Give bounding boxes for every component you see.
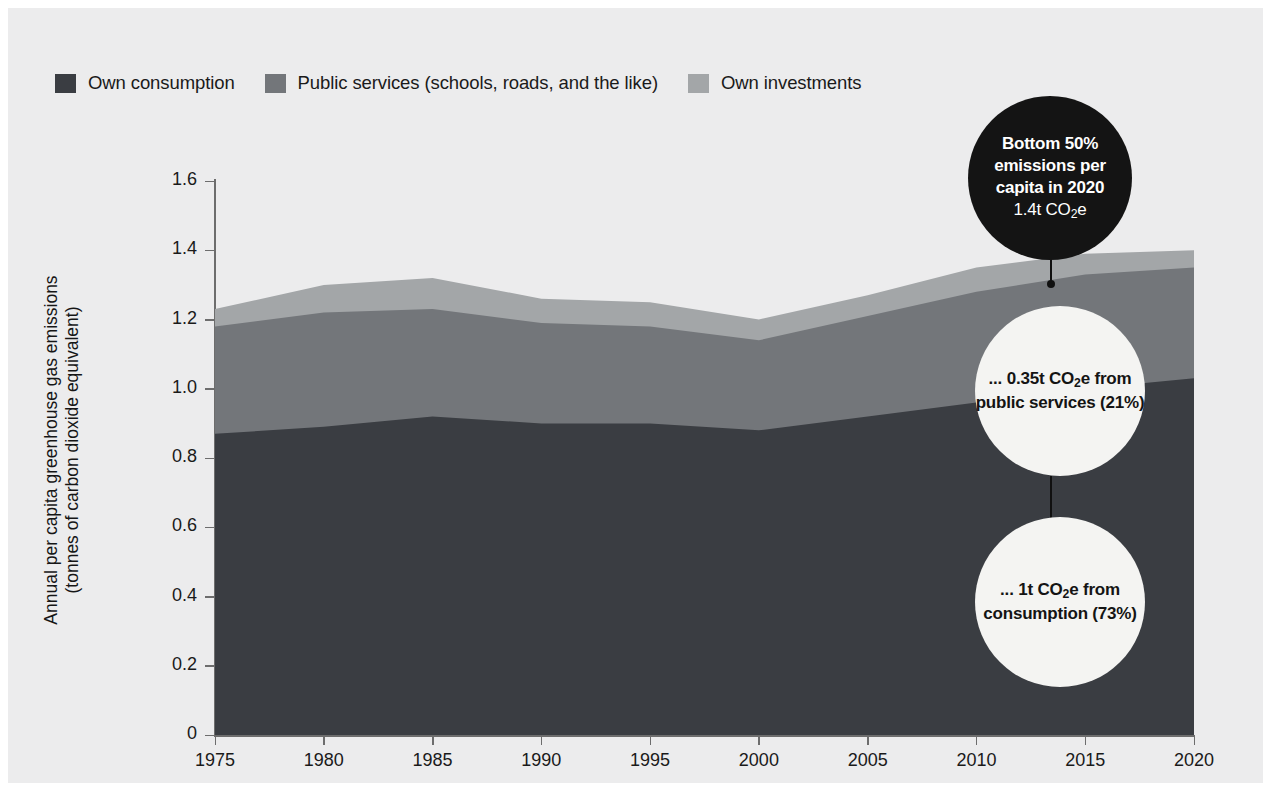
- legend-item-public-services[interactable]: Public services (schools, roads, and the…: [265, 72, 658, 94]
- y-tick-mark: [205, 319, 214, 321]
- y-tick-mark: [205, 735, 214, 737]
- legend-label-public-services: Public services (schools, roads, and the…: [298, 72, 658, 94]
- x-tick-mark: [976, 736, 978, 745]
- x-tick-label: 1980: [284, 750, 364, 771]
- x-tick-mark: [215, 736, 217, 745]
- x-tick-mark: [1194, 736, 1196, 745]
- legend-swatch-own-investments: [688, 74, 709, 93]
- x-tick-label: 2000: [719, 750, 799, 771]
- x-tick-label: 1995: [610, 750, 690, 771]
- connector-public-to-consumption: [1050, 476, 1052, 518]
- y-tick-label: 1.4: [153, 238, 197, 259]
- x-tick-label: 1985: [393, 750, 473, 771]
- chart-legend: Own consumption Public services (schools…: [55, 68, 891, 98]
- chart-panel: Own consumption Public services (schools…: [8, 8, 1263, 783]
- x-tick-mark: [1085, 736, 1087, 745]
- y-axis-title: Annual per capita greenhouse gas emissio…: [40, 170, 84, 730]
- y-tick-label: 0: [153, 723, 197, 744]
- x-tick-label: 1990: [501, 750, 581, 771]
- chart-figure: Own consumption Public services (schools…: [0, 0, 1271, 791]
- x-tick-label: 2005: [828, 750, 908, 771]
- legend-label-own-investments: Own investments: [721, 72, 861, 94]
- x-tick-label: 2020: [1154, 750, 1234, 771]
- y-tick-mark: [205, 250, 214, 252]
- y-axis-title-line1: Annual per capita greenhouse gas emissio…: [41, 275, 62, 624]
- bubble-public-services[interactable]: ... 0.35t CO2e from public services (21%…: [975, 306, 1145, 476]
- x-tick-mark: [650, 736, 652, 745]
- bubble-total-sub: 1.4t CO2e: [1013, 199, 1086, 223]
- y-tick-label: 0.4: [153, 585, 197, 606]
- y-tick-label: 1.0: [153, 377, 197, 398]
- x-tick-mark: [758, 736, 760, 745]
- legend-swatch-own-consumption: [55, 74, 76, 93]
- x-tick-label: 1975: [175, 750, 255, 771]
- y-tick-mark: [205, 388, 214, 390]
- x-tick-mark: [541, 736, 543, 745]
- x-tick-mark: [867, 736, 869, 745]
- y-axis-title-line2: (tonnes of carbon dioxide equivalent): [62, 307, 83, 594]
- bubble-public-title: ... 0.35t CO2e from public services (21%…: [975, 368, 1145, 414]
- y-tick-label: 0.8: [153, 446, 197, 467]
- legend-item-own-consumption[interactable]: Own consumption: [55, 72, 235, 94]
- y-tick-mark: [205, 181, 214, 183]
- y-tick-mark: [205, 527, 214, 529]
- legend-label-own-consumption: Own consumption: [88, 72, 235, 94]
- bubble-consumption[interactable]: ... 1t CO2e from consumption (73%): [975, 517, 1145, 687]
- bubble-consumption-title: ... 1t CO2e from consumption (73%): [975, 579, 1145, 625]
- bubble-total-2020[interactable]: Bottom 50% emissions per capita in 2020 …: [968, 96, 1132, 260]
- x-tick-mark: [323, 736, 325, 745]
- connector-dot-total: [1047, 280, 1055, 288]
- y-tick-mark: [205, 596, 214, 598]
- y-tick-label: 0.6: [153, 515, 197, 536]
- x-tick-label: 2015: [1045, 750, 1125, 771]
- legend-item-own-investments[interactable]: Own investments: [688, 72, 861, 94]
- y-tick-mark: [205, 458, 214, 460]
- y-tick-mark: [205, 665, 214, 667]
- y-tick-label: 1.2: [153, 308, 197, 329]
- x-axis-line: [214, 735, 1195, 737]
- x-tick-mark: [432, 736, 434, 745]
- bubble-total-title: Bottom 50% emissions per capita in 2020: [968, 133, 1132, 199]
- legend-swatch-public-services: [265, 74, 286, 93]
- y-tick-label: 1.6: [153, 169, 197, 190]
- y-tick-label: 0.2: [153, 654, 197, 675]
- x-tick-label: 2010: [936, 750, 1016, 771]
